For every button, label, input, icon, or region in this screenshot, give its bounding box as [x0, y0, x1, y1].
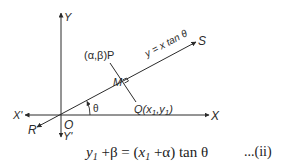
label-y-axis: Y [64, 12, 71, 23]
coordinate-diagram [0, 0, 285, 167]
label-theta: θ [93, 104, 99, 114]
label-point-p: (α,β)P [84, 50, 114, 61]
label-point-m: M [113, 77, 122, 88]
label-x-axis: X [211, 110, 219, 122]
label-point-q: Q(x1,y1) [134, 104, 173, 117]
eq-lhs-var: y [86, 144, 93, 160]
label-x-prime: X' [13, 110, 22, 121]
label-y-prime: Y' [63, 131, 72, 142]
label-s: S [198, 35, 206, 47]
q-prefix: Q(x [134, 103, 152, 115]
equation-number: ...(ii) [244, 145, 272, 159]
q-suffix: ) [169, 103, 173, 115]
theta-arc [87, 102, 90, 116]
q-mid: ,y [156, 103, 165, 115]
equation-ii: y1 +β = (x1 +α) tan θ [86, 145, 208, 162]
eq-rhs-rest: +α) tan θ [150, 144, 208, 160]
eq-lhs-rest: +β = ( [98, 144, 139, 160]
label-r: R [28, 124, 37, 136]
label-origin: O [64, 119, 73, 131]
